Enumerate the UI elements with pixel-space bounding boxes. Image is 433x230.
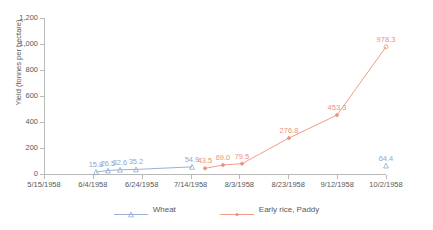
y-tick-label: 1,000 (4, 40, 38, 48)
data-point-marker (384, 163, 389, 168)
data-point-label: 453.3 (328, 104, 347, 112)
y-tick (40, 18, 44, 19)
y-tick-label: 0 (4, 170, 38, 178)
series-line (96, 167, 192, 172)
data-point-marker (106, 168, 111, 173)
data-point-label: 32.6 (113, 159, 128, 167)
series-line (205, 47, 386, 169)
x-tick (142, 175, 143, 179)
x-axis-line (44, 174, 386, 175)
y-tick-label: 200 (4, 144, 38, 152)
y-tick (40, 70, 44, 71)
y-tick (40, 122, 44, 123)
legend-label: Early rice, Paddy (259, 205, 319, 214)
data-point-marker (288, 137, 291, 140)
x-tick (386, 175, 387, 179)
y-tick (40, 148, 44, 149)
data-point-marker (222, 164, 225, 167)
data-point-marker (336, 114, 339, 117)
data-point-label: 69.0 (216, 154, 231, 162)
y-tick (40, 96, 44, 97)
data-point-label: 35.2 (129, 158, 144, 166)
y-tick-label: 800 (4, 66, 38, 74)
legend-swatch-icon (220, 205, 254, 214)
chart-legend: WheatEarly rice, Paddy (0, 200, 433, 218)
x-tick (288, 175, 289, 179)
data-point-marker (241, 162, 244, 165)
y-axis-line (44, 18, 45, 174)
y-tick (40, 44, 44, 45)
data-point-marker (134, 167, 139, 172)
data-point-label: 276.8 (280, 127, 299, 135)
data-point-label: 79.5 (235, 153, 250, 161)
data-point-marker (204, 167, 207, 170)
x-tick (239, 175, 240, 179)
x-tick (44, 175, 45, 179)
legend-item-wheat[interactable]: Wheat (114, 205, 176, 214)
series-plot (0, 0, 433, 230)
y-tick-label: 400 (4, 118, 38, 126)
legend-item-early-rice-paddy[interactable]: Early rice, Paddy (220, 205, 319, 214)
data-point-marker (384, 45, 388, 49)
x-tick (337, 175, 338, 179)
data-point-marker (190, 164, 195, 169)
data-point-marker (118, 167, 123, 172)
y-tick-label: 1,200 (4, 14, 38, 22)
x-tick (191, 175, 192, 179)
x-tick-label: 10/2/1958 (355, 180, 417, 189)
y-tick-label: 600 (4, 92, 38, 100)
data-point-label: 43.5 (198, 157, 213, 165)
chart-container: Yield (tonnes per hectare) 0200400600800… (0, 0, 433, 230)
legend-label: Wheat (153, 205, 176, 214)
legend-swatch-icon (114, 205, 148, 214)
x-tick (93, 175, 94, 179)
data-point-label: 978.3 (377, 36, 396, 44)
data-point-label: 64.4 (379, 155, 394, 163)
